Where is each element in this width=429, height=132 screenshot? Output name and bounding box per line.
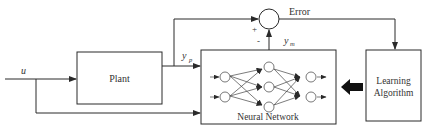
neuron-output-2 [306,92,316,102]
learning-algorithm-block: Learning Algorithm [366,50,421,121]
plant-output-label: y p [181,50,193,63]
ym-subscript: m [290,40,295,47]
neuron-hidden-2 [264,82,274,92]
plus-sign: + [252,24,257,34]
plant-block: Plant [77,52,162,104]
neuron-output-1 [306,72,316,82]
neuron-input-2 [220,92,230,102]
block-diagram: Plant + - [0,0,429,132]
yp-symbol: y [181,50,187,61]
summing-junction: + - [252,9,279,46]
error-line [279,19,395,49]
model-output-label: y m [283,35,295,47]
error-label: Error [289,6,311,17]
neuron-input-1 [220,72,230,82]
learning-label-line1: Learning [376,76,411,86]
minus-sign: - [257,36,260,46]
neural-network-label: Neural Network [237,112,299,122]
update-arrow-icon [341,79,363,95]
plant-label: Plant [109,73,130,84]
neuron-hidden-1 [264,62,274,72]
ym-symbol: y [283,35,289,46]
neuron-hidden-3 [264,102,274,112]
learning-label-line2: Algorithm [374,88,414,98]
input-label: u [21,65,26,76]
yp-subscript: p [188,56,193,63]
neural-network-block: Neural Network [201,50,336,124]
